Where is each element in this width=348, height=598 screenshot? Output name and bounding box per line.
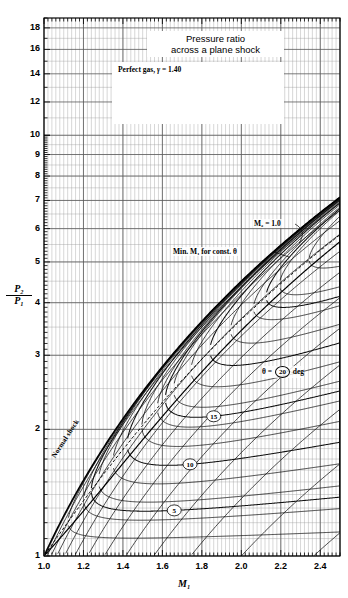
y-tick-label: 5 [14,256,40,266]
chart-title-line2: across a plane shock [171,44,260,56]
chart-title-line1: Pressure ratio [186,33,245,45]
x-axis-title: M₁ [178,578,190,589]
svg-text:15: 15 [210,413,218,421]
annotation-min-mach: Min. M₁ for const. θ [172,247,238,256]
annotation-m2-sonic: M₂ = 1.0 [253,219,282,228]
x-tick-label: 1.6 [147,561,177,571]
x-tick-label: 2.2 [266,561,296,571]
theta-contour-label: 15 [207,411,221,422]
y-tick-label: 7 [14,194,40,204]
theta-contour-label: 5 [167,505,181,516]
x-tick-label: 2.4 [305,561,335,571]
svg-text:5: 5 [172,507,176,515]
x-tick-label: 1.4 [108,561,138,571]
gas-assumption-text: Perfect gas, γ = 1.40 [118,65,181,74]
svg-text:10: 10 [187,461,195,469]
y-tick-label: 2 [14,423,40,433]
x-tick-label: 1.8 [187,561,217,571]
y-tick-label: 10 [14,129,40,139]
y-tick-label: 4 [14,297,40,307]
y-tick-label: 6 [14,223,40,233]
theta-legend-value: 20 [275,366,290,378]
y-tick-label: 18 [14,22,40,32]
x-tick-label: 1.2 [68,561,98,571]
y-tick-label: 16 [14,43,40,53]
annotation-theta-legend: θ = 20 deg [262,366,304,378]
theta-contour-label: 10 [183,459,197,470]
gas-assumption-box: Perfect gas, γ = 1.40 [112,62,284,124]
y-tick-label: 9 [14,149,40,159]
y-tick-label: 3 [14,349,40,359]
chart-title-box: Pressure ratio across a plane shock [147,31,284,57]
x-tick-label: 1.0 [29,561,59,571]
y-tick-label: 8 [14,170,40,180]
y-tick-label: 14 [14,68,40,78]
y-tick-label: 12 [14,96,40,106]
y-tick-label: 1 [14,550,40,560]
x-tick-label: 2.0 [226,561,256,571]
